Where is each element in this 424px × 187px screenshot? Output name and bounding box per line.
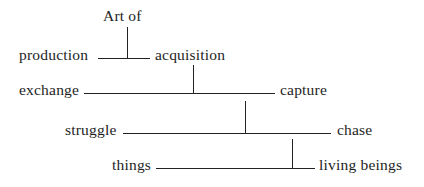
connector-root-vertical bbox=[127, 27, 128, 58]
node-exchange: exchange bbox=[19, 82, 79, 98]
division-tree-diagram: Art of production acquisition exchange c… bbox=[0, 0, 424, 187]
connector-level1-horizontal bbox=[98, 58, 150, 59]
connector-level2-horizontal bbox=[84, 93, 275, 94]
node-chase: chase bbox=[337, 122, 372, 138]
node-acquisition: acquisition bbox=[155, 47, 225, 63]
node-production: production bbox=[19, 47, 88, 63]
connector-level3-vertical bbox=[292, 139, 293, 168]
connector-level4-horizontal bbox=[156, 168, 315, 169]
node-struggle: struggle bbox=[65, 122, 117, 138]
node-things: things bbox=[112, 157, 151, 173]
node-art-of: Art of bbox=[103, 8, 142, 24]
connector-level3-horizontal bbox=[123, 133, 331, 134]
node-living-beings: living beings bbox=[319, 157, 402, 173]
connector-level1-vertical bbox=[193, 65, 194, 93]
connector-level2-vertical bbox=[245, 101, 246, 133]
node-capture: capture bbox=[280, 82, 327, 98]
